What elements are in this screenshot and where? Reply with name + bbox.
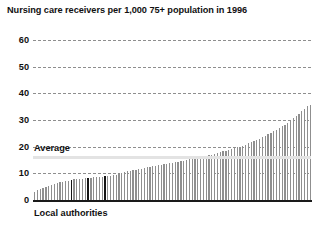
y-axis-tick-0: 0 [24,196,29,205]
y-axis-tick-30: 30 [19,116,29,125]
x-axis-label: Local authorities [34,208,108,218]
y-axis-tick-50: 50 [19,63,29,72]
plot-area: 0102030405060 Average [33,36,311,204]
chart-container: Nursing care receivers per 1,000 75+ pop… [0,0,321,228]
y-axis-tick-40: 40 [19,90,29,99]
bar [309,105,311,200]
y-axis-tick-10: 10 [19,170,29,179]
chart-title: Nursing care receivers per 1,000 75+ pop… [7,5,317,16]
x-axis-baseline [33,200,312,202]
bars-group [33,40,311,200]
average-line [33,156,311,159]
average-label: Average [34,144,70,153]
y-axis-tick-20: 20 [19,143,29,152]
y-axis-tick-60: 60 [19,36,29,45]
